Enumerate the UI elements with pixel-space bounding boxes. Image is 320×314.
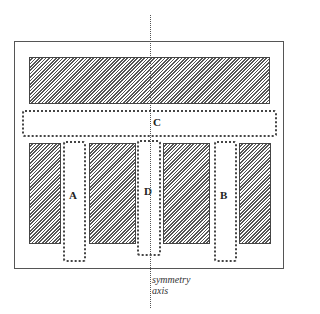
zone-a-label: A: [69, 189, 77, 201]
axis-label-line2: axis: [152, 285, 190, 296]
hatched-block-lower-4: [239, 143, 271, 244]
hatched-block-lower-3: [163, 143, 210, 244]
zone-a: [63, 141, 86, 262]
symmetry-axis-label: symmetry axis: [152, 274, 190, 296]
hatched-block-lower-1: [29, 143, 61, 244]
hatched-block-lower-2: [89, 143, 136, 244]
zone-c-label: C: [153, 116, 161, 128]
zone-d: [137, 140, 161, 256]
zone-b: [214, 141, 237, 262]
symmetry-axis-line: [150, 15, 151, 308]
zone-b-label: B: [220, 189, 227, 201]
axis-label-line1: symmetry: [152, 274, 190, 285]
